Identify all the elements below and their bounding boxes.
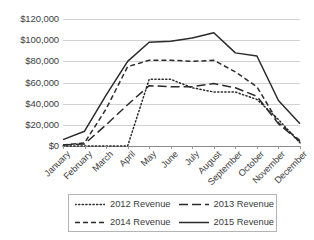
- legend-swatch-icon: [75, 218, 105, 227]
- legend-swatch-icon: [179, 200, 209, 209]
- plot-area: [63, 19, 300, 146]
- y-axis: $0$20,000$40,000$60,000$80,000$100,000$1…: [0, 0, 59, 240]
- legend-item-2013[interactable]: 2013 Revenue: [173, 199, 277, 209]
- revenue-line-chart: $0$20,000$40,000$60,000$80,000$100,000$1…: [0, 0, 314, 240]
- y-axis-tick-label: $100,000: [20, 34, 59, 45]
- legend-label: 2012 Revenue: [110, 199, 170, 209]
- legend-label: 2015 Revenue: [214, 217, 274, 227]
- y-axis-tick-label: $40,000: [25, 98, 59, 109]
- x-axis: JanuaryFebruaryMarchAprilMayJuneJulyAugu…: [0, 146, 314, 194]
- series-line-2012: [63, 79, 300, 146]
- x-axis-tick-label: May: [139, 149, 158, 168]
- series-layer: [63, 19, 300, 146]
- y-axis-tick-label: $80,000: [25, 55, 59, 66]
- legend-item-2015[interactable]: 2015 Revenue: [173, 217, 277, 227]
- y-axis-tick-label: $60,000: [25, 77, 59, 88]
- legend-swatch-icon: [179, 218, 209, 227]
- x-axis-tick-label: March: [90, 149, 115, 174]
- legend-label: 2014 Revenue: [110, 217, 170, 227]
- series-line-2015: [63, 33, 300, 140]
- legend-item-2012[interactable]: 2012 Revenue: [69, 199, 173, 209]
- legend-swatch-icon: [75, 200, 105, 209]
- series-line-2013: [63, 84, 300, 145]
- legend-label: 2013 Revenue: [214, 199, 274, 209]
- y-axis-tick-label: $20,000: [25, 119, 59, 130]
- chart-legend: 2012 Revenue2013 Revenue2014 Revenue2015…: [68, 194, 277, 232]
- x-axis-tick-label: April: [117, 149, 137, 169]
- x-axis-tick-label: June: [159, 149, 180, 170]
- legend-item-2014[interactable]: 2014 Revenue: [69, 217, 173, 227]
- y-axis-tick-label: $120,000: [20, 13, 59, 24]
- x-axis-tick: [85, 146, 86, 149]
